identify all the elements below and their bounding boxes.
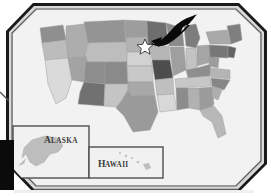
state-nd: [124, 20, 148, 38]
state-id: [66, 24, 88, 58]
state-al: [188, 88, 200, 110]
state-wy: [87, 42, 127, 62]
graphic-canvas: A LASKA H AWAII: [0, 0, 271, 196]
state-wv: [209, 56, 219, 68]
state-ar: [155, 78, 174, 95]
state-la: [157, 94, 177, 112]
state-co: [105, 62, 128, 84]
inset-hawaii[interactable]: H AWAII: [89, 147, 163, 178]
state-mt: [84, 20, 126, 43]
state-ne: [127, 52, 152, 66]
state-ny: [206, 30, 231, 44]
state-ks: [127, 66, 153, 82]
bottom-shadow-strip: [14, 190, 254, 193]
state-or: [42, 40, 68, 60]
inset-hawaii-label-rest: AWAII: [105, 161, 129, 169]
inset-alaska-label-rest: LASKA: [51, 137, 78, 145]
state-in: [186, 48, 197, 70]
state-ok: [128, 82, 155, 96]
map-illustration: A LASKA H AWAII: [0, 0, 271, 196]
state-pa: [209, 45, 228, 58]
inset-alaska[interactable]: A LASKA: [13, 126, 89, 178]
state-mo: [152, 60, 173, 80]
state-va: [210, 68, 230, 79]
state-ia: [149, 46, 170, 60]
state-ms: [176, 88, 189, 110]
black-block: [0, 140, 14, 190]
